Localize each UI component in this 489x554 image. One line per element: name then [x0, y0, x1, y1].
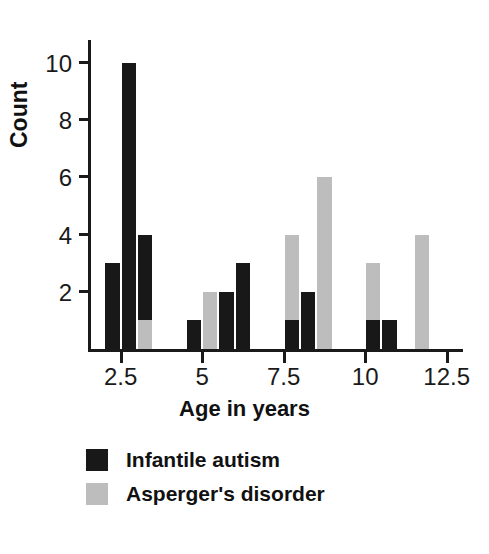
y-axis-line [88, 40, 91, 352]
x-axis-tick [201, 352, 204, 363]
histogram-bar [317, 177, 331, 349]
histogram-bar [105, 263, 119, 349]
histogram-bar [415, 235, 429, 349]
x-axis-tick-label: 10 [352, 363, 379, 391]
x-axis-tick-label: 2.5 [104, 363, 137, 391]
legend-swatch-icon [86, 449, 108, 471]
y-axis-tick-label: 2 [26, 279, 72, 307]
y-axis-tick-label: 10 [26, 50, 72, 78]
x-axis-line [88, 349, 463, 352]
plot-area: 246810 [88, 40, 463, 352]
histogram-bar [301, 292, 315, 349]
y-axis-tick-label: 6 [26, 164, 72, 192]
x-axis-tick-label: 12.5 [423, 363, 470, 391]
histogram-bar [382, 320, 396, 349]
histogram-bar [122, 63, 136, 349]
histogram-bar [203, 292, 217, 349]
histogram-bar [219, 292, 233, 349]
legend-item-label: Asperger's disorder [126, 482, 325, 506]
y-axis-tick [79, 118, 88, 121]
x-axis-title: Age in years [0, 396, 489, 422]
y-axis-tick-label: 8 [26, 107, 72, 135]
y-axis-tick [79, 175, 88, 178]
histogram-figure: Count 246810 2.557.51012.5 Age in years … [0, 0, 489, 554]
legend: Infantile autismAsperger's disorder [86, 443, 325, 511]
x-axis-tick [120, 352, 123, 363]
legend-item-label: Infantile autism [126, 448, 280, 472]
legend-swatch-icon [86, 483, 108, 505]
x-axis-tick-label: 5 [195, 363, 208, 391]
x-axis-tick [446, 352, 449, 363]
y-axis-tick-label: 4 [26, 222, 72, 250]
histogram-bar [187, 320, 201, 349]
x-axis-tick [283, 352, 286, 363]
x-axis-tick-label: 7.5 [267, 363, 300, 391]
x-axis-tick [364, 352, 367, 363]
y-axis-tick [79, 61, 88, 64]
histogram-bar [285, 320, 299, 349]
y-axis-tick [79, 233, 88, 236]
histogram-bar [236, 263, 250, 349]
y-axis-tick [79, 290, 88, 293]
histogram-bar [138, 320, 152, 349]
legend-item: Asperger's disorder [86, 477, 325, 511]
histogram-bar [366, 320, 380, 349]
legend-item: Infantile autism [86, 443, 325, 477]
